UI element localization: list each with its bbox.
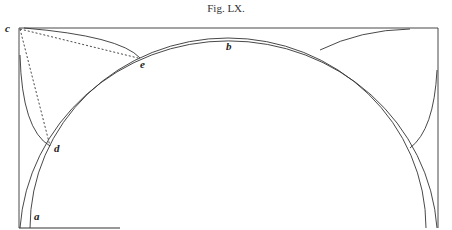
dashed-c-e: [20, 29, 138, 58]
inner-arch: [30, 38, 426, 228]
label-c: c: [5, 22, 10, 34]
frame: [19, 28, 438, 228]
arch-diagram: [0, 0, 452, 230]
right-upper-cusp: [320, 29, 410, 50]
label-e: e: [140, 58, 145, 70]
right-lower-cusp: [410, 70, 437, 148]
dashed-c-d: [20, 29, 50, 146]
left-upper-cusp: [24, 28, 140, 58]
label-a: a: [34, 210, 40, 222]
label-b: b: [226, 40, 232, 52]
label-d: d: [54, 142, 60, 154]
outer-arch: [20, 41, 437, 228]
left-lower-cusp: [20, 55, 50, 146]
